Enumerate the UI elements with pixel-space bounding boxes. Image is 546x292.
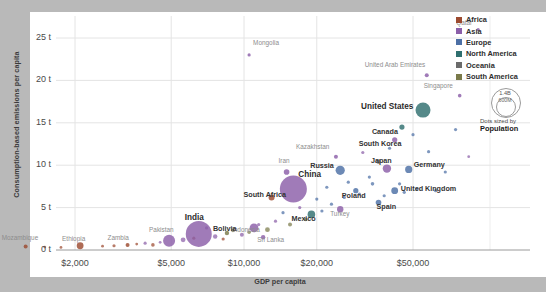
data-point[interactable] — [383, 164, 391, 172]
point-label: Sri Lanka — [257, 236, 284, 243]
size-legend-circles: 1.4B 600M — [478, 88, 544, 118]
data-point[interactable] — [320, 209, 323, 212]
region-legend[interactable]: AfricaAsiaEuropeNorth AmericaOceaniaSout… — [456, 14, 518, 82]
data-point[interactable] — [399, 124, 404, 129]
data-point[interactable] — [467, 155, 470, 158]
data-point[interactable] — [325, 186, 328, 189]
data-point[interactable] — [454, 128, 457, 131]
data-point[interactable] — [368, 175, 371, 178]
legend-swatch-icon — [456, 28, 462, 34]
data-point[interactable] — [186, 221, 212, 247]
data-point[interactable] — [181, 237, 186, 242]
data-point[interactable] — [265, 227, 270, 232]
point-label: Spain — [377, 202, 397, 211]
legend-label: South America — [466, 72, 518, 81]
point-label: Poland — [342, 191, 366, 200]
x-tick-label: $20,000 — [277, 258, 357, 268]
point-label: United Arab Emirates — [365, 61, 425, 68]
legend-swatch-icon — [456, 51, 462, 57]
point-label: Iran — [279, 157, 290, 164]
legend-label: Africa — [466, 15, 487, 24]
point-label: Mexico — [291, 214, 315, 223]
data-point[interactable] — [151, 243, 155, 247]
data-point[interactable] — [315, 198, 318, 201]
point-label: South Korea — [359, 139, 402, 148]
y-tick-label: 0 t — [11, 244, 51, 254]
data-point[interactable] — [126, 243, 130, 247]
point-label: Bolivia — [213, 224, 237, 233]
point-label: Ethiopia — [62, 235, 85, 242]
legend-item-oceania[interactable]: Oceania — [456, 60, 518, 71]
legend-swatch-icon — [456, 39, 462, 45]
point-label: South Africa — [244, 190, 286, 199]
data-point[interactable] — [336, 166, 345, 175]
data-point[interactable] — [416, 103, 431, 118]
chart-screenshot: 0 t5 t10 t15 t20 t25 t $2,000$5,000$10,0… — [0, 0, 546, 292]
data-point[interactable] — [298, 206, 301, 209]
x-tick-label: $10,000 — [204, 258, 284, 268]
data-point[interactable] — [274, 220, 277, 223]
point-label: United States — [361, 102, 413, 111]
data-point[interactable] — [371, 182, 375, 186]
data-point[interactable] — [213, 234, 217, 238]
legend-item-asia[interactable]: Asia — [456, 25, 518, 36]
data-point[interactable] — [427, 150, 430, 153]
point-label: Zambia — [108, 234, 129, 241]
x-tick-label: $5,000 — [131, 258, 211, 268]
size-legend-caption-2: Population — [478, 124, 544, 133]
legend-item-africa[interactable]: Africa — [456, 14, 518, 25]
data-point[interactable] — [101, 245, 104, 248]
point-label: Japan — [371, 156, 392, 165]
legend-item-north-america[interactable]: North America — [456, 48, 518, 59]
data-point[interactable] — [361, 151, 364, 154]
data-point[interactable] — [240, 233, 244, 237]
data-point[interactable] — [458, 94, 462, 98]
legend-swatch-icon — [456, 17, 462, 23]
legend-swatch-icon — [456, 62, 462, 68]
data-point[interactable] — [405, 166, 412, 173]
point-label: Mozambique — [2, 234, 39, 241]
data-point[interactable] — [391, 187, 398, 194]
legend-item-europe[interactable]: Europe — [456, 37, 518, 48]
y-axis-title: Consumption-based emissions per capita — [12, 25, 21, 225]
point-label: China — [298, 170, 321, 179]
data-point[interactable] — [222, 237, 225, 240]
legend-label: North America — [466, 49, 517, 58]
legend-label: Europe — [466, 38, 491, 47]
legend-label: Asia — [466, 27, 482, 36]
point-label: United Kingdom — [401, 184, 457, 193]
data-point[interactable] — [60, 246, 63, 249]
data-point[interactable] — [159, 241, 162, 244]
legend-swatch-icon — [456, 74, 462, 80]
point-label: Kazakhstan — [296, 143, 329, 150]
data-point[interactable] — [248, 53, 251, 56]
size-legend-inner-label: 600M — [478, 97, 532, 103]
point-label: Canada — [372, 127, 398, 136]
data-point[interactable] — [425, 73, 429, 77]
data-point[interactable] — [281, 211, 284, 214]
data-point[interactable] — [411, 133, 414, 136]
data-point[interactable] — [330, 203, 333, 206]
data-point[interactable] — [135, 243, 138, 246]
point-label: Germany — [414, 160, 445, 169]
data-point[interactable] — [334, 155, 338, 159]
data-point[interactable] — [347, 181, 350, 184]
point-label: Mongolia — [253, 39, 279, 46]
point-label: Singapore — [424, 82, 453, 89]
point-label: Russia — [310, 161, 334, 170]
point-label: Pakistan — [149, 226, 174, 233]
legend-item-south-america[interactable]: South America — [456, 71, 518, 82]
data-point[interactable] — [112, 244, 115, 247]
point-label: Turkey — [330, 210, 349, 217]
point-label: India — [185, 213, 204, 222]
data-point[interactable] — [383, 194, 386, 197]
data-point[interactable] — [144, 242, 147, 245]
size-legend-outer-label: 1.4B — [478, 90, 532, 96]
legend-label: Oceania — [466, 61, 495, 70]
data-point[interactable] — [444, 170, 447, 173]
data-point[interactable] — [77, 242, 84, 249]
data-point[interactable] — [163, 235, 175, 247]
data-point[interactable] — [284, 169, 290, 175]
x-tick-label: $2,000 — [35, 258, 115, 268]
x-axis-title: GDP per capita — [180, 277, 380, 286]
